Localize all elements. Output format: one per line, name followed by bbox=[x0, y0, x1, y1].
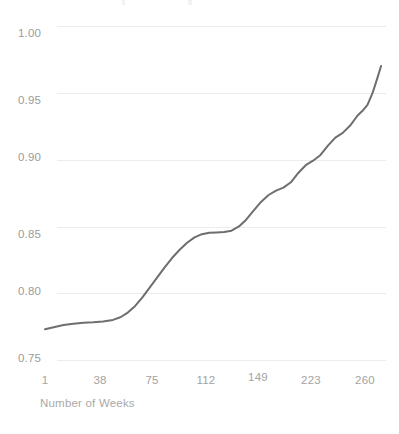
x-tick-label-1: 1 bbox=[42, 374, 49, 386]
series-line-cumulative-curve bbox=[45, 66, 381, 329]
series-line-layer bbox=[0, 0, 399, 434]
x-tick-label-38: 38 bbox=[93, 374, 106, 386]
x-axis-title: Number of Weeks bbox=[40, 397, 135, 409]
x-tick-label-260: 260 bbox=[355, 374, 375, 386]
x-tick-label-223: 223 bbox=[301, 374, 321, 386]
chart-container: 1.00 0.95 0.90 0.85 0.80 0.75 1 38 75 11… bbox=[0, 0, 399, 434]
x-tick-label-112: 112 bbox=[197, 374, 216, 386]
x-tick-label-75: 75 bbox=[145, 374, 158, 386]
x-tick-label-149: 149 bbox=[248, 371, 268, 383]
plot-area: 1.00 0.95 0.90 0.85 0.80 0.75 1 38 75 11… bbox=[0, 0, 399, 434]
